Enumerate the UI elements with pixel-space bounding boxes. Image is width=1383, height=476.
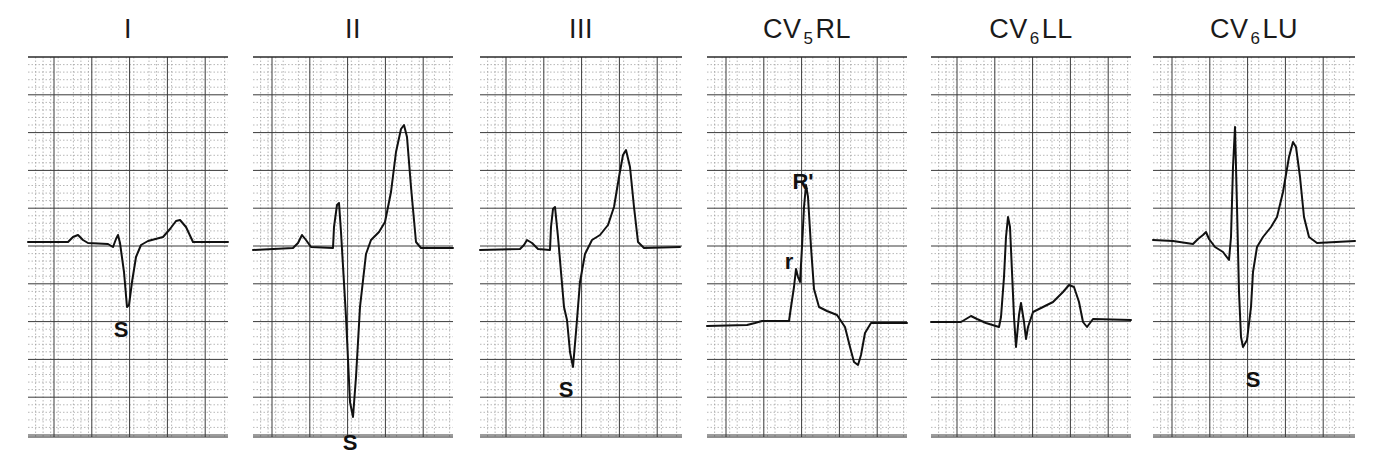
grid-lines — [931, 57, 1131, 437]
lead-title: CV5RL — [707, 14, 907, 49]
grid-lines — [28, 57, 228, 437]
ecg-grid-strip: rR' — [707, 57, 907, 437]
lead-title-base: I — [124, 14, 132, 44]
grid-lines — [707, 57, 907, 437]
ecg-grid-strip: S — [480, 57, 682, 437]
lead-title-base: III — [569, 14, 593, 44]
ecg-grid-strip: S — [1153, 57, 1355, 437]
wave-label: S — [343, 430, 358, 455]
lead-title-subscript: 5 — [804, 29, 814, 48]
wave-label: S — [1246, 367, 1261, 392]
wave-label: R' — [792, 169, 813, 194]
lead-panel-cv6ll: CV6LL — [931, 0, 1131, 476]
lead-title-suffix: RL — [815, 14, 851, 44]
wave-label: S — [559, 377, 574, 402]
ecg-grid-strip: S — [28, 57, 228, 437]
lead-title-suffix: LL — [1042, 14, 1073, 44]
lead-title: II — [253, 14, 453, 45]
lead-panel-iii: IIIS — [480, 0, 682, 476]
lead-panel-i: IS — [28, 0, 228, 476]
lead-title-base: CV — [763, 14, 802, 44]
lead-title-suffix: LU — [1262, 14, 1298, 44]
lead-panel-cv6lu: CV6LUS — [1153, 0, 1355, 476]
lead-title-base: II — [345, 14, 361, 44]
lead-title: CV6LL — [931, 14, 1131, 49]
ecg-grid-strip — [931, 57, 1131, 437]
lead-title-subscript: 6 — [1030, 29, 1040, 48]
lead-title-base: CV — [1210, 14, 1249, 44]
lead-title: I — [28, 14, 228, 45]
wave-label: S — [114, 317, 129, 342]
lead-title-subscript: 6 — [1251, 29, 1261, 48]
lead-title-base: CV — [989, 14, 1028, 44]
ecg-grid-strip: S — [253, 57, 453, 437]
lead-title: III — [480, 14, 682, 45]
lead-panel-cv5rl: CV5RLrR' — [707, 0, 907, 476]
lead-title: CV6LU — [1153, 14, 1355, 49]
wave-label: r — [785, 249, 794, 274]
lead-panel-ii: IIS — [253, 0, 453, 476]
